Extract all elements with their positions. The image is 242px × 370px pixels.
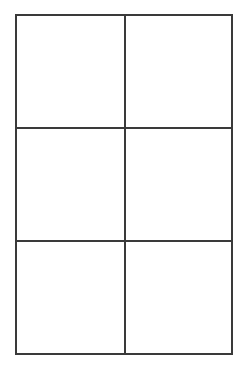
grid-cell-r3c1 bbox=[17, 242, 124, 353]
grid-cell-r2c2 bbox=[126, 129, 231, 240]
grid-cell-r1c1 bbox=[17, 16, 124, 127]
grid-cell-r2c1 bbox=[17, 129, 124, 240]
grid-cell-r1c2 bbox=[126, 16, 231, 127]
grid-cell-r3c2 bbox=[126, 242, 231, 353]
